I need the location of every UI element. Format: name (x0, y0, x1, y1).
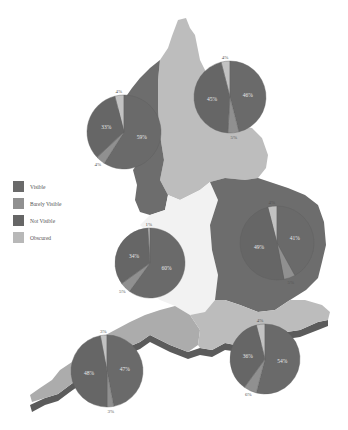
legend: Visible Barely Visible Not Visible Obscu… (13, 178, 62, 246)
legend-label: Barely Visible (30, 201, 62, 207)
pie-label-right: 46% (243, 92, 254, 98)
pie-label-obscured: 4% (269, 200, 276, 205)
legend-item-not-visible: Not Visible (13, 212, 62, 229)
pie-label-left: 36% (243, 353, 254, 359)
legend-label: Visible (30, 184, 46, 190)
pie-label-obscured: 4% (257, 318, 264, 323)
pie-label-right: 41% (290, 235, 301, 241)
legend-item-barely-visible: Barely Visible (13, 195, 62, 212)
pie-label-barely: 3% (107, 409, 114, 414)
pie-label-barely: 6% (245, 392, 252, 397)
pie-label-left: 45% (207, 96, 218, 102)
pie-label-obscured: 4% (116, 89, 123, 94)
pie-label-left: 33% (101, 124, 112, 130)
pie-label-left: 48% (84, 370, 95, 376)
legend-item-visible: Visible (13, 178, 62, 195)
pie-label-right: 60% (162, 265, 173, 271)
swatch-visible (13, 181, 24, 192)
pie-label-right: 59% (137, 134, 148, 140)
pie-label-obscured: 3% (100, 329, 107, 334)
swatch-not-visible (13, 215, 24, 226)
pie-label-right: 47% (120, 366, 131, 372)
pie-label-barely: 5% (119, 289, 126, 294)
pie-label-barely: 5% (288, 280, 295, 285)
legend-label: Not Visible (30, 218, 55, 224)
swatch-obscured (13, 232, 24, 243)
legend-item-obscured: Obscured (13, 229, 62, 246)
pie-label-right: 54% (277, 358, 288, 364)
swatch-barely-visible (13, 198, 24, 209)
pie-label-barely: 4% (95, 162, 102, 167)
pie-label-obscured: 1% (145, 222, 152, 227)
pie-label-left: 49% (254, 244, 265, 250)
pie-label-obscured: 4% (222, 55, 229, 60)
pie-label-barely: 5% (230, 135, 237, 140)
pie-label-left: 34% (129, 253, 140, 259)
legend-label: Obscured (30, 235, 51, 241)
